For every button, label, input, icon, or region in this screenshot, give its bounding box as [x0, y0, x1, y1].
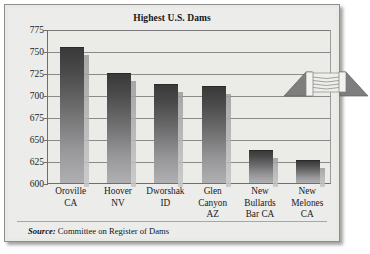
- x-axis-label-line: Glen: [189, 186, 236, 198]
- x-axis-label: OrovilleCA: [47, 186, 94, 209]
- bar[interactable]: [154, 84, 178, 183]
- bar-slot: [48, 30, 95, 183]
- x-axis-label-line: Bullards: [236, 198, 283, 210]
- x-axis-label-line: Melones: [284, 198, 331, 210]
- y-axis-tick-label: 725: [8, 69, 44, 79]
- y-axis-tick-mark: [44, 184, 48, 185]
- x-axis-label: DworshakID: [142, 186, 189, 209]
- x-axis-label-line: Hoover: [94, 186, 141, 198]
- bar-slot: [143, 30, 190, 183]
- x-axis-label-line: CA: [284, 209, 331, 221]
- bar[interactable]: [107, 73, 131, 183]
- x-axis-label-line: AZ: [189, 209, 236, 221]
- bar-series: [48, 30, 330, 183]
- source-note: Source: Committee on Register of Dams: [28, 226, 169, 236]
- chart-title: Highest U.S. Dams: [8, 13, 336, 23]
- bar[interactable]: [249, 150, 273, 183]
- x-axis-label-line: Bar CA: [236, 209, 283, 221]
- source-text: Committee on Register of Dams: [58, 226, 169, 236]
- bar-shadow: [226, 94, 231, 187]
- x-axis-label-line: Oroville: [47, 186, 94, 198]
- x-axis-label-line: New: [236, 186, 283, 198]
- y-axis-tick-label: 625: [8, 157, 44, 167]
- source-divider: [17, 221, 327, 222]
- bar-shadow: [320, 168, 325, 187]
- bar-shadow: [178, 92, 183, 187]
- y-axis-tick-label: 600: [8, 179, 44, 189]
- y-axis-tick-label: 700: [8, 91, 44, 101]
- bar[interactable]: [60, 47, 84, 183]
- x-axis-label-line: New: [284, 186, 331, 198]
- y-axis-tick-label: 750: [8, 47, 44, 57]
- bar[interactable]: [202, 86, 226, 183]
- bar-shadow: [131, 81, 136, 187]
- x-axis-label-line: NV: [94, 198, 141, 210]
- bar-shadow: [273, 158, 278, 187]
- bar-slot: [190, 30, 237, 183]
- source-label: Source:: [28, 226, 56, 236]
- y-axis-tick-label: 775: [8, 25, 44, 35]
- x-axis-label-line: CA: [47, 198, 94, 210]
- bar-slot: [285, 30, 332, 183]
- x-axis-label: HooverNV: [94, 186, 141, 209]
- bar-slot: [95, 30, 142, 183]
- y-axis-tick-label: 675: [8, 113, 44, 123]
- bar-shadow: [84, 55, 89, 187]
- chart-figure: Highest U.S. Dams 7757507257006756506256…: [4, 4, 340, 242]
- x-axis-label-line: Canyon: [189, 198, 236, 210]
- bar-slot: [237, 30, 284, 183]
- y-axis-tick-label: 650: [8, 135, 44, 145]
- x-axis-label: GlenCanyonAZ: [189, 186, 236, 221]
- chart-figure-inner: Highest U.S. Dams 7757507257006756506256…: [8, 8, 336, 238]
- x-axis-label-line: ID: [142, 198, 189, 210]
- dam-illustration-icon: [282, 66, 370, 98]
- x-axis-label-line: Dworshak: [142, 186, 189, 198]
- x-axis-label: NewMelonesCA: [284, 186, 331, 221]
- plot-area: 775750725700675650625600: [47, 30, 331, 184]
- bar[interactable]: [296, 160, 320, 183]
- x-axis-label: NewBullardsBar CA: [236, 186, 283, 221]
